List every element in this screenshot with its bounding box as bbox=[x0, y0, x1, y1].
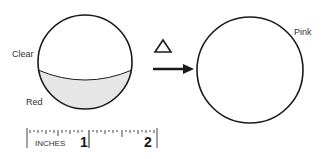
delta-heat-icon bbox=[155, 40, 171, 52]
red-label: Red bbox=[26, 97, 43, 107]
arrow-right-icon bbox=[153, 64, 194, 74]
diagram-canvas: Clear Red Pink bbox=[0, 0, 323, 159]
ruler-unit-label: INCHES bbox=[35, 139, 65, 148]
clear-label: Clear bbox=[12, 49, 34, 59]
ruler-mark-2: 2 bbox=[144, 134, 152, 150]
ruler-mark-1: 1 bbox=[80, 134, 88, 150]
right-sphere-outline bbox=[197, 17, 303, 123]
left-sphere bbox=[38, 15, 132, 120]
pink-label: Pink bbox=[294, 27, 312, 37]
